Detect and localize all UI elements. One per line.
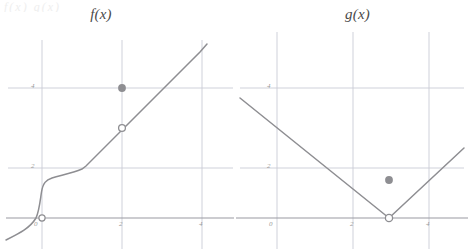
panel-g: g(x) [236,0,473,249]
hole-point-f-origin [39,215,45,221]
x-tick-f-0: 0 [34,220,38,228]
y-tick-f-2: 2 [31,162,35,170]
plot-g: 4 2 0 2 4 [236,30,473,249]
panel-f-title: f(x) [0,6,219,23]
filled-point-f-2-4 [118,84,126,92]
curve-g-left-branch [240,98,389,218]
x-tick-f-4: 4 [199,220,203,228]
panel-g-title: g(x) [239,6,473,23]
hole-point-g-vertex [385,214,392,221]
filled-point-g [385,176,393,184]
y-tick-g-4: 4 [267,82,271,90]
plot-g-svg [236,30,473,249]
x-tick-f-2: 2 [119,220,123,228]
y-tick-g-2: 2 [267,162,271,170]
x-tick-g-4: 4 [426,220,430,228]
curve-g-right-branch [389,148,464,218]
plot-f: 4 2 0 2 4 [0,30,236,249]
plot-f-svg [0,30,236,249]
hole-point-f-2-3 [119,125,126,132]
x-tick-g-2: 2 [350,220,354,228]
panel-f: f(x) [0,0,236,249]
figure-stage: f(x) g(x) f(x) [0,0,473,249]
y-tick-f-4: 4 [31,82,35,90]
x-tick-g-0: 0 [269,220,273,228]
grid-vertical-g [277,32,429,249]
curve-f [6,44,207,240]
grid-horizontal-g [240,88,464,168]
